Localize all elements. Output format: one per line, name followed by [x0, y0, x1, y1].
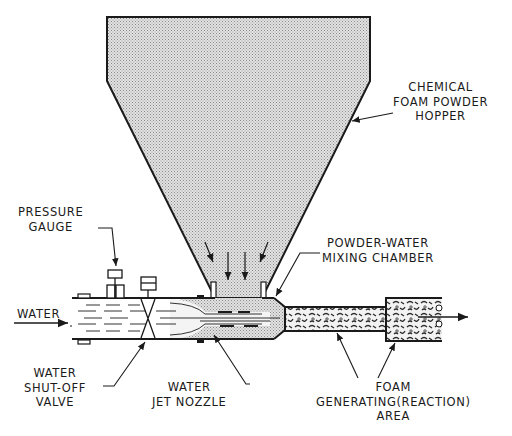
water-pipe: [72, 294, 285, 344]
label-shut-off-valve: WATER SHUT-OFF VALVE: [24, 366, 86, 410]
reaction-tube: [285, 298, 442, 341]
label-reaction-area: FOAM GENERATING(REACTION) AREA: [316, 380, 470, 424]
leader-hopper: [352, 113, 393, 121]
label-jet-nozzle: WATER JET NOZZLE: [152, 380, 226, 409]
label-hopper: CHEMICAL FOAM POWDER HOPPER: [393, 80, 488, 124]
leader-jet-nozzle: [214, 335, 250, 384]
nozzle-bolt-bottom: [197, 340, 204, 343]
neck-plate-left: [211, 282, 216, 298]
label-mixing-chamber: POWDER-WATER MIXING CHAMBER: [322, 236, 434, 265]
label-water-inlet: WATER: [17, 307, 60, 322]
flange-top: [78, 294, 90, 298]
leader-shut-off-valve: [103, 342, 145, 386]
label-pressure-gauge: PRESSURE GAUGE: [18, 205, 83, 234]
leader-mixing-chamber: [276, 253, 320, 296]
leader-reaction-tube: [337, 333, 358, 378]
flange-bottom: [78, 340, 90, 344]
nozzle-bolt-top: [197, 295, 204, 298]
leader-reaction-wide: [378, 343, 395, 378]
pressure-gauge: [107, 270, 124, 298]
leader-pressure-gauge: [98, 228, 116, 266]
neck-plate-right: [261, 282, 266, 298]
